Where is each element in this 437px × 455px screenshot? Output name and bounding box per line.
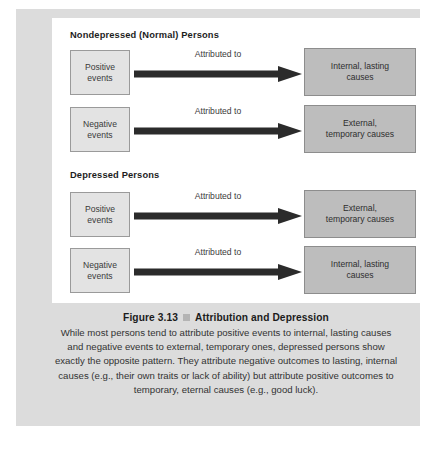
attribution-arrow-icon <box>134 66 302 82</box>
target-box-external-temporary-causes: External, temporary causes <box>304 105 416 153</box>
source-box-negative-events: Negative events <box>70 107 130 152</box>
target-box-line-1: External, <box>343 203 377 214</box>
group-heading-depressed: Depressed Persons <box>70 170 159 180</box>
figure-panel: Nondepressed (Normal) Persons Positive e… <box>16 9 420 426</box>
figure-title: Attribution and Depression <box>195 312 329 323</box>
source-box-line-1: Positive <box>85 204 115 214</box>
figure-root: Nondepressed (Normal) Persons Positive e… <box>0 0 437 455</box>
target-box-line-1: External, <box>343 118 377 129</box>
figure-number: Figure 3.13 <box>123 312 178 323</box>
target-box-line-1: Internal, lasting <box>331 259 389 270</box>
source-box-line-1: Negative <box>83 260 117 270</box>
arrow-label: Attributed to <box>134 191 302 201</box>
flow-row: Negative events Attributed to Internal, … <box>52 246 436 298</box>
source-box-line-2: events <box>87 130 112 140</box>
flow-row: Positive events Attributed to External, … <box>52 190 436 242</box>
target-box-line-2: causes <box>346 72 373 83</box>
target-box-line-2: causes <box>346 270 373 281</box>
square-bullet-icon <box>183 314 190 321</box>
attribution-arrow-icon <box>134 208 302 224</box>
flow-row: Positive events Attributed to Internal, … <box>52 48 436 100</box>
arrow-label: Attributed to <box>134 49 302 59</box>
arrow-label: Attributed to <box>134 247 302 257</box>
target-box-external-temporary-causes: External, temporary causes <box>304 190 416 238</box>
group-heading-nondepressed: Nondepressed (Normal) Persons <box>70 30 219 40</box>
target-box-line-2: temporary causes <box>326 214 394 225</box>
target-box-internal-lasting-causes: Internal, lasting causes <box>304 48 416 96</box>
flow-row: Negative events Attributed to External, … <box>52 105 436 157</box>
source-box-line-2: events <box>87 73 112 83</box>
diagram-area: Nondepressed (Normal) Persons Positive e… <box>52 18 436 303</box>
source-box-line-2: events <box>87 215 112 225</box>
source-box-line-1: Negative <box>83 119 117 129</box>
target-box-line-1: Internal, lasting <box>331 61 389 72</box>
attribution-arrow-icon <box>134 123 302 139</box>
target-box-line-2: temporary causes <box>326 129 394 140</box>
figure-caption-body: While most persons tend to attribute pos… <box>52 326 400 397</box>
source-box-positive-events: Positive events <box>70 50 130 95</box>
target-box-internal-lasting-causes: Internal, lasting causes <box>304 246 416 294</box>
source-box-line-1: Positive <box>85 62 115 72</box>
source-box-negative-events: Negative events <box>70 248 130 293</box>
attribution-arrow-icon <box>134 264 302 280</box>
figure-caption: Figure 3.13 Attribution and Depression W… <box>52 312 400 397</box>
figure-caption-title: Figure 3.13 Attribution and Depression <box>52 312 400 323</box>
source-box-line-2: events <box>87 271 112 281</box>
arrow-label: Attributed to <box>134 106 302 116</box>
source-box-positive-events: Positive events <box>70 192 130 237</box>
